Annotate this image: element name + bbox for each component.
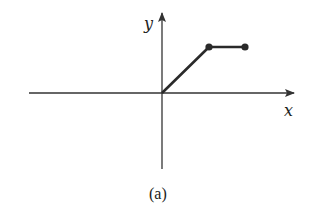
x-axis-label: x	[284, 101, 293, 120]
endpoint-marker	[205, 43, 212, 50]
y-axis-label: y	[143, 14, 154, 33]
endpoint-marker	[241, 43, 248, 50]
plotted-line	[162, 47, 245, 93]
graph-figure: y x (a)	[0, 0, 316, 215]
figure-caption: (a)	[149, 185, 167, 203]
